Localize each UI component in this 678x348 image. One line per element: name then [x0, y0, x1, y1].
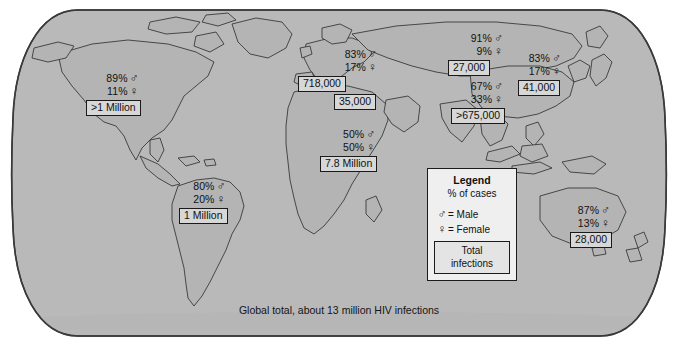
female-icon: ♀: [215, 193, 228, 205]
female-pct-row: 20%♀: [179, 193, 228, 206]
legend-total-line1: Total: [437, 244, 507, 257]
female-pct-row: 17%♀: [332, 61, 379, 74]
figure-caption: Global total, about 13 million HIV infec…: [0, 304, 678, 316]
total-infections-box: 41,000: [518, 80, 560, 96]
region-label-western-europe: 83%♂ 17%♀ 718,000: [332, 48, 379, 92]
total-infections-box: 27,000: [448, 60, 490, 76]
male-pct-value: 83%: [332, 48, 366, 61]
male-pct-value: 67%: [458, 80, 492, 93]
legend-title: Legend: [434, 174, 510, 187]
legend-spacer: [434, 200, 510, 207]
female-pct-value: 9%: [458, 45, 492, 58]
female-pct-value: 13%: [565, 217, 599, 230]
total-box-wrapper: >1 Million: [86, 98, 141, 116]
total-box-wrapper: 35,000: [334, 94, 376, 110]
male-icon: ♂: [492, 80, 505, 92]
male-pct-value: 80%: [181, 180, 215, 193]
total-box-wrapper: >675,000: [451, 106, 505, 124]
male-pct-value: 83%: [516, 52, 550, 65]
female-pct-row: 11%♀: [86, 85, 141, 98]
total-infections-box: 35,000: [334, 94, 376, 110]
male-pct-value: 89%: [94, 72, 128, 85]
region-label-east-asia-pacific: 83%♂ 17%♀ 41,000: [516, 52, 563, 96]
female-pct-value: 11%: [94, 85, 128, 98]
female-pct-row: 33%♀: [455, 93, 505, 106]
total-box-wrapper: 41,000: [518, 78, 563, 96]
female-icon: ♀: [436, 223, 448, 235]
legend: Legend % of cases ♂= Male ♀= Female Tota…: [427, 168, 517, 281]
male-icon: ♂: [366, 48, 379, 60]
female-pct-row: 50%♀: [320, 141, 377, 154]
region-label-north-america: 89%♂ 11%♀ >1 Million: [86, 72, 141, 116]
legend-female-label: = Female: [448, 224, 490, 235]
female-icon: ♀: [492, 45, 505, 57]
total-box-wrapper: 7.8 Million: [320, 154, 377, 172]
male-icon: ♂: [215, 180, 228, 192]
total-box-wrapper: 28,000: [570, 230, 612, 248]
male-icon: ♂: [364, 128, 377, 140]
female-pct-value: 17%: [516, 65, 550, 78]
female-icon: ♀: [550, 65, 563, 77]
total-box-wrapper: 1 Million: [179, 206, 228, 224]
legend-row-male: ♂= Male: [434, 207, 510, 222]
male-icon: ♂: [599, 204, 612, 216]
female-icon: ♀: [492, 93, 505, 105]
hiv-world-map-figure: 89%♂ 11%♀ >1 Million 80%♂ 20%♀ 1 Million…: [0, 0, 678, 348]
female-pct-value: 20%: [181, 193, 215, 206]
male-icon: ♂: [550, 52, 563, 64]
region-label-north-africa-middle-east: 35,000: [334, 94, 376, 110]
total-box-wrapper: 27,000: [448, 58, 505, 76]
legend-subtitle: % of cases: [434, 187, 510, 200]
legend-total-box: Total infections: [434, 241, 510, 274]
female-icon: ♀: [364, 141, 377, 153]
male-pct-value: 91%: [458, 32, 492, 45]
female-icon: ♀: [599, 217, 612, 229]
legend-row-female: ♀= Female: [434, 222, 510, 237]
total-infections-box: >675,000: [451, 108, 505, 124]
caribbean-b: [204, 159, 216, 166]
female-pct-value: 33%: [458, 93, 492, 106]
female-icon: ♀: [366, 61, 379, 73]
female-pct-row: 17%♀: [516, 65, 563, 78]
male-icon: ♂: [492, 32, 505, 44]
total-box-wrapper: 718,000: [298, 74, 379, 92]
male-pct-value: 50%: [330, 128, 364, 141]
total-infections-box: >1 Million: [86, 100, 141, 116]
female-icon: ♀: [128, 85, 141, 97]
female-pct-value: 50%: [330, 141, 364, 154]
female-pct-value: 17%: [332, 61, 366, 74]
legend-total-line2: infections: [437, 257, 507, 270]
region-label-eastern-europe-central-asia: 91%♂ 9%♀ 27,000: [458, 32, 505, 76]
region-label-south-southeast-asia: 67%♂ 33%♀ >675,000: [455, 80, 505, 124]
male-icon: ♂: [128, 72, 141, 84]
male-icon: ♂: [436, 208, 448, 220]
total-infections-box: 7.8 Million: [320, 156, 377, 172]
total-infections-box: 718,000: [298, 76, 346, 92]
region-label-australia-oceania: 87%♂ 13%♀ 28,000: [562, 204, 612, 248]
region-label-latin-america: 80%♂ 20%♀ 1 Million: [179, 180, 228, 224]
total-infections-box: 1 Million: [179, 208, 228, 224]
male-pct-value: 87%: [565, 204, 599, 217]
total-infections-box: 28,000: [570, 232, 612, 248]
legend-male-label: = Male: [448, 209, 478, 220]
female-pct-row: 13%♀: [562, 217, 612, 230]
female-pct-row: 9%♀: [458, 45, 505, 58]
region-label-sub-saharan-africa: 50%♂ 50%♀ 7.8 Million: [320, 128, 377, 172]
